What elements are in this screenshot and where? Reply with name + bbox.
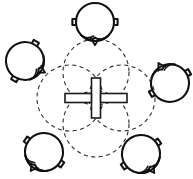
cross-vertical-bar xyxy=(92,78,101,118)
ring-top xyxy=(72,3,117,45)
diagram-canvas xyxy=(0,0,193,179)
ring-left xyxy=(0,32,56,92)
ring-right xyxy=(139,52,193,111)
ring-bottom-right xyxy=(112,125,173,179)
center-cross-hub xyxy=(65,78,127,118)
ring-bottom-left xyxy=(12,123,73,179)
technical-drawing-svg xyxy=(0,0,193,179)
